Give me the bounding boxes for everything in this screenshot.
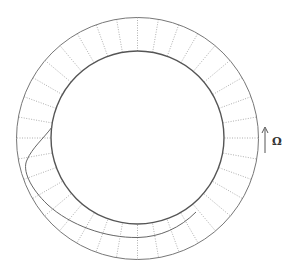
- radial-grid-line: [167, 25, 178, 56]
- radial-grid-line: [204, 194, 230, 216]
- radial-grid-line: [96, 220, 107, 251]
- radial-grid-line: [60, 46, 82, 72]
- radial-grid-line: [167, 220, 178, 251]
- radial-grid-line: [153, 224, 159, 257]
- radial-grid-line: [33, 182, 62, 199]
- radial-grid-line: [213, 182, 242, 199]
- radial-grid-line: [45, 61, 71, 83]
- radial-grid-line: [193, 46, 215, 72]
- radial-grid-line: [117, 19, 123, 52]
- omega-label: Ω: [272, 135, 282, 148]
- rotating-annulus-diagram: Ω: [0, 0, 294, 276]
- radial-grid-line: [223, 153, 256, 159]
- radial-grid-line: [60, 205, 82, 231]
- radial-grid-line: [219, 97, 250, 108]
- rotation-arrow: [262, 127, 268, 153]
- radial-grid-line: [181, 34, 198, 63]
- radial-grid-lines: [17, 18, 258, 259]
- radial-grid-line: [24, 168, 55, 179]
- radial-grid-line: [223, 117, 256, 123]
- radial-grid-line: [33, 78, 62, 95]
- radial-grid-line: [77, 34, 94, 63]
- radial-grid-line: [24, 97, 55, 108]
- radial-grid-line: [19, 117, 52, 123]
- radial-grid-line: [96, 25, 107, 56]
- radial-grid-line: [219, 168, 250, 179]
- radial-grid-line: [204, 61, 230, 83]
- outer-circle: [17, 18, 259, 260]
- radial-grid-line: [117, 224, 123, 257]
- radial-grid-line: [19, 153, 52, 159]
- radial-grid-line: [193, 205, 215, 231]
- radial-grid-line: [213, 78, 242, 95]
- inner-circle: [51, 51, 224, 224]
- radial-grid-line: [153, 19, 159, 52]
- radial-grid-line: [45, 194, 71, 216]
